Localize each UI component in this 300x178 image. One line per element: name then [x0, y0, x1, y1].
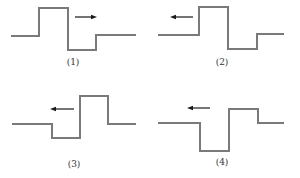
pulse-waveform: [11, 8, 136, 50]
arrow-right-icon: [75, 15, 97, 19]
arrow-left-icon: [170, 15, 193, 19]
panel-3: (3): [12, 96, 136, 169]
panel-label: (2): [216, 57, 229, 67]
panel-4: (4): [158, 106, 284, 167]
pulse-waveform: [12, 96, 136, 138]
panel-label: (3): [68, 159, 81, 169]
arrow-left-icon: [50, 107, 74, 111]
diagram-svg: (1) (2) (3) (4): [0, 0, 300, 178]
wave-pulse-diagram: (1) (2) (3) (4): [0, 0, 300, 178]
arrow-left-icon: [187, 106, 210, 110]
pulse-waveform: [158, 109, 284, 151]
panel-1: (1): [11, 8, 136, 67]
pulse-waveform: [158, 7, 284, 49]
panel-2: (2): [158, 7, 284, 67]
panel-label: (1): [67, 57, 80, 67]
panel-label: (4): [216, 157, 229, 167]
